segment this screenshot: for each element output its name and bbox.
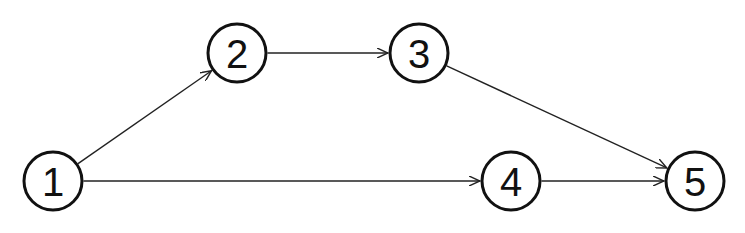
edge-1-to-2 bbox=[78, 71, 212, 164]
edge-3-to-5 bbox=[447, 66, 667, 168]
graph-canvas: 12345 bbox=[0, 0, 745, 233]
node-label: 1 bbox=[42, 160, 64, 204]
node-label: 5 bbox=[684, 160, 706, 204]
node-3: 3 bbox=[390, 24, 448, 82]
node-1: 1 bbox=[24, 152, 82, 210]
node-2: 2 bbox=[208, 24, 266, 82]
node-label: 3 bbox=[408, 32, 430, 76]
node-4: 4 bbox=[482, 152, 540, 210]
node-5: 5 bbox=[666, 152, 724, 210]
node-label: 2 bbox=[226, 32, 248, 76]
edge-layer bbox=[78, 53, 667, 181]
node-label: 4 bbox=[500, 160, 522, 204]
node-layer: 12345 bbox=[24, 24, 724, 210]
